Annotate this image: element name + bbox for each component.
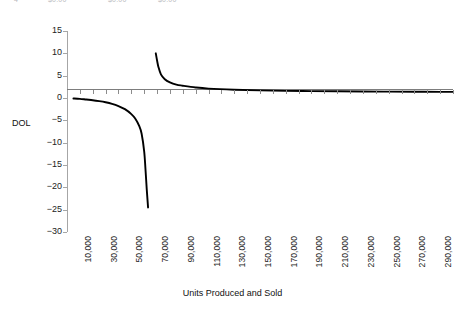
y-tick: [63, 53, 67, 54]
x-tick-label: 50,000: [134, 236, 144, 263]
x-tick: [350, 90, 351, 94]
y-tick: [63, 232, 67, 233]
x-tick: [93, 90, 94, 94]
x-tick: [440, 90, 441, 94]
x-tick-label: 150,000: [263, 236, 273, 267]
x-tick-label: 170,000: [289, 236, 299, 267]
x-tick-label: 250,000: [392, 236, 402, 267]
y-tick-label: −15: [22, 160, 62, 169]
y-tick-label: −10: [22, 138, 62, 147]
x-tick: [402, 90, 403, 94]
x-tick: [234, 90, 235, 94]
y-tick-label: 0: [22, 93, 62, 102]
x-tick: [118, 90, 119, 94]
y-tick: [63, 31, 67, 32]
series-below-breakeven: [73, 98, 148, 207]
plot-area: [67, 31, 453, 232]
y-tick-label: −30: [22, 227, 62, 236]
x-tick: [376, 90, 377, 94]
x-tick: [196, 90, 197, 94]
series-above-breakeven: [156, 53, 453, 92]
x-tick-label: 110,000: [212, 236, 222, 267]
x-tick-label: 30,000: [109, 236, 119, 263]
x-tick: [106, 90, 107, 94]
x-tick-label: 10,000: [83, 236, 93, 263]
dol-chart: 4 $0.00 $0.00 $0.00 151050−5−10−15−20−25…: [0, 0, 465, 312]
y-tick: [63, 210, 67, 211]
y-tick: [63, 143, 67, 144]
x-tick-label: 90,000: [186, 236, 196, 263]
y-tick-label: 5: [22, 71, 62, 80]
clipped-fragment-2: $0.00: [48, 0, 67, 3]
x-tick: [414, 90, 415, 94]
x-tick: [453, 90, 454, 94]
clipped-spreadsheet-row: 4 $0.00 $0.00 $0.00: [0, 0, 465, 7]
y-tick-label: −20: [22, 182, 62, 191]
x-tick: [221, 90, 222, 94]
x-tick: [157, 90, 158, 94]
clipped-fragment-4: $0.00: [158, 0, 177, 3]
x-tick-label: 130,000: [237, 236, 247, 267]
y-tick-label: 15: [22, 26, 62, 35]
x-tick-label: 230,000: [366, 236, 376, 267]
x-tick: [324, 90, 325, 94]
x-axis-tick-labels: 10,00030,00050,00070,00090,000110,000130…: [67, 236, 453, 284]
x-tick-label: 270,000: [417, 236, 427, 267]
x-tick: [337, 90, 338, 94]
x-tick: [299, 90, 300, 94]
x-tick: [286, 90, 287, 94]
y-tick-label: 10: [22, 48, 62, 57]
x-tick: [170, 90, 171, 94]
x-tick-label: 210,000: [340, 236, 350, 267]
x-tick-label: 290,000: [443, 236, 453, 267]
x-tick: [183, 90, 184, 94]
x-tick: [273, 90, 274, 94]
x-tick: [389, 90, 390, 94]
y-tick: [63, 165, 67, 166]
x-tick: [209, 90, 210, 94]
y-tick-label: −25: [22, 205, 62, 214]
x-axis-title: Units Produced and Sold: [0, 288, 465, 298]
y-tick: [63, 76, 67, 77]
x-tick-label: 190,000: [314, 236, 324, 267]
dol-curves: [67, 31, 453, 232]
y-tick: [63, 187, 67, 188]
x-tick: [247, 90, 248, 94]
x-tick: [363, 90, 364, 94]
y-tick: [63, 98, 67, 99]
y-axis-tick-labels: 151050−5−10−15−20−25−30: [18, 31, 62, 232]
clipped-fragment-3: $0.00: [108, 0, 127, 3]
y-axis-title: DOL: [12, 118, 31, 128]
clipped-fragment-1: 4: [14, 0, 18, 3]
x-tick: [260, 90, 261, 94]
x-tick: [311, 90, 312, 94]
x-tick-label: 70,000: [160, 236, 170, 263]
x-tick: [144, 90, 145, 94]
x-tick: [427, 90, 428, 94]
x-tick: [80, 90, 81, 94]
y-tick: [63, 120, 67, 121]
x-tick: [131, 90, 132, 94]
